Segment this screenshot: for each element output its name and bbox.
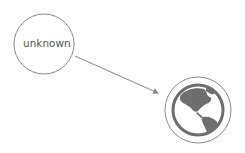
globe-icon [173, 85, 223, 135]
edge-unknown-to-internet [75, 56, 158, 93]
diagram-canvas [0, 0, 245, 153]
node-unknown-label: unknown [23, 37, 71, 49]
node-internet[interactable] [165, 77, 231, 143]
